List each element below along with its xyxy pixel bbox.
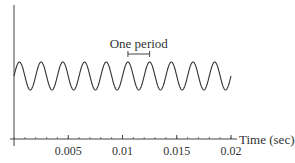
- x-tick-label: 0.015: [163, 144, 190, 158]
- one-period-bracket: [128, 51, 150, 57]
- x-axis-ticks: [14, 135, 231, 139]
- x-tick-label: 0.005: [55, 144, 82, 158]
- x-tick-label: 0.01: [112, 144, 133, 158]
- sine-wave-line: [14, 62, 231, 90]
- x-axis-label: Time (sec): [239, 132, 295, 147]
- x-axis-tick-labels: 0.0050.010.0150.02: [55, 144, 242, 158]
- one-period-annotation: One period: [110, 36, 169, 51]
- sine-wave-chart: 0.0050.010.0150.02 Time (sec) One period: [0, 0, 295, 163]
